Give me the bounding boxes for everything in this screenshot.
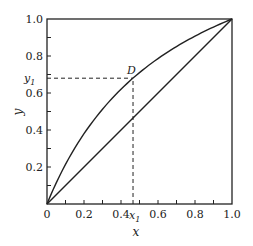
x-tick-label: 0.2 — [75, 208, 93, 221]
y-axis-label: y — [11, 108, 25, 116]
y-tick-label: 0.2 — [26, 161, 44, 174]
y-tick-label: 0.6 — [26, 87, 44, 100]
y1-tick-label: y1 — [23, 72, 35, 87]
vle-chart: 00.20.40.60.81.00.20.40.60.81.0 x y D x1… — [0, 0, 253, 246]
chart-series — [47, 19, 232, 204]
point-d-label: D — [126, 64, 136, 77]
x-tick-label: 1.0 — [223, 208, 241, 221]
x-tick-label: 0.8 — [186, 208, 204, 221]
y-tick-label: 0.8 — [26, 50, 44, 63]
chart-annotations — [47, 78, 133, 204]
x-tick-label: 0.6 — [149, 208, 167, 221]
x-tick-label: 0 — [44, 208, 51, 221]
y-tick-label: 0.4 — [26, 124, 44, 137]
diagonal-line — [47, 19, 232, 204]
y-tick-label: 1.0 — [26, 13, 44, 26]
x1-tick-label: x1 — [129, 209, 140, 224]
x-tick-label: 0.4 — [112, 208, 130, 221]
x-axis-label: x — [133, 225, 140, 239]
